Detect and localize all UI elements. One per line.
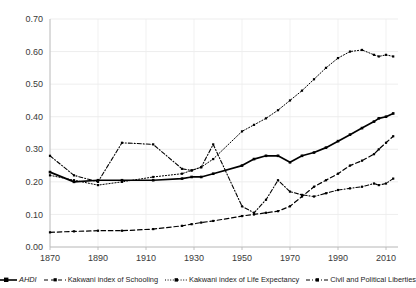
series-marker-2: [49, 174, 51, 176]
series-marker-2: [121, 181, 123, 183]
y-axis-tick-label: 0.30: [25, 144, 43, 154]
series-marker-2: [212, 158, 214, 160]
series-marker-2: [73, 179, 75, 181]
series-marker-3: [97, 181, 99, 183]
series-marker-2: [253, 124, 255, 126]
x-axis-tick-label: 1910: [136, 253, 156, 263]
series-marker-0: [212, 172, 215, 175]
series-marker-1: [277, 210, 279, 212]
series-marker-2: [337, 57, 339, 59]
series-marker-0: [378, 117, 381, 120]
x-axis-tick-label: 1870: [40, 253, 60, 263]
series-marker-1: [191, 223, 193, 225]
series-marker-2: [152, 176, 154, 178]
series-marker-1: [152, 228, 154, 230]
series-marker-2: [265, 117, 267, 119]
series-marker-2: [361, 49, 363, 51]
series-marker-3: [73, 174, 75, 176]
legend-item: Kakwani index of Schooling: [44, 276, 158, 284]
x-axis-tick-label: 1890: [88, 253, 108, 263]
series-marker-2: [349, 50, 351, 52]
series-marker-3: [212, 143, 214, 145]
legend-marker-schooling: [44, 276, 66, 284]
series-marker-3: [289, 191, 291, 193]
series-marker-1: [265, 212, 267, 214]
series-marker-3: [277, 179, 279, 181]
series-marker-0: [181, 177, 184, 180]
series-marker-1: [200, 221, 202, 223]
series-marker-0: [241, 164, 244, 167]
series-marker-3: [181, 168, 183, 170]
legend-item: AHDI: [0, 276, 37, 284]
series-marker-0: [392, 112, 395, 115]
legend-marker-ahdi: [0, 276, 17, 284]
chart-legend: AHDI Kakwani index of Schooling Kakwani …: [0, 276, 411, 284]
series-marker-1: [373, 153, 375, 155]
series-marker-1: [289, 205, 291, 207]
x-axis-tick-label: 2010: [376, 253, 396, 263]
series-marker-0: [325, 146, 328, 149]
series-marker-1: [181, 225, 183, 227]
series-marker-1: [241, 215, 243, 217]
series-marker-2: [373, 54, 375, 56]
series-marker-1: [349, 164, 351, 166]
series-marker-1: [73, 230, 75, 232]
x-axis-tick-label: 1930: [184, 253, 204, 263]
series-line-0: [50, 113, 393, 181]
series-marker-2: [385, 54, 387, 56]
series-marker-1: [378, 148, 380, 150]
series-marker-1: [392, 135, 394, 137]
series-marker-3: [349, 187, 351, 189]
series-line-3: [50, 143, 393, 213]
series-marker-1: [121, 230, 123, 232]
legend-label-schooling: Kakwani index of Schooling: [68, 276, 158, 283]
series-marker-2: [392, 55, 394, 57]
series-marker-3: [253, 212, 255, 214]
series-marker-3: [373, 182, 375, 184]
series-marker-0: [277, 155, 280, 158]
series-marker-0: [337, 140, 340, 143]
series-marker-2: [378, 55, 380, 57]
series-marker-3: [191, 169, 193, 171]
series-marker-1: [385, 142, 387, 144]
series-marker-3: [241, 205, 243, 207]
series-marker-0: [373, 120, 376, 123]
series-marker-2: [277, 109, 279, 111]
series-marker-0: [385, 115, 388, 118]
x-axis-tick-label: 1950: [232, 253, 252, 263]
series-marker-3: [325, 192, 327, 194]
series-marker-0: [313, 151, 316, 154]
y-axis-tick-label: 0.50: [25, 79, 43, 89]
x-axis-tick-label: 1990: [328, 253, 348, 263]
legend-label-civil-liberties: Civil and Political Liberties: [330, 276, 416, 283]
series-marker-0: [49, 171, 52, 174]
series-line-2: [50, 50, 393, 185]
series-marker-0: [200, 176, 203, 179]
legend-label-life-expectancy: Kakwani index of Life Expectancy: [189, 276, 299, 283]
y-axis-tick-label: 0.00: [25, 242, 43, 252]
series-marker-3: [301, 194, 303, 196]
legend-marker-life-expectancy: [165, 276, 187, 284]
legend-item: Kakwani index of Life Expectancy: [165, 276, 299, 284]
series-marker-0: [253, 158, 256, 161]
series-marker-3: [200, 166, 202, 168]
y-axis-tick-label: 0.60: [25, 47, 43, 57]
series-marker-2: [325, 67, 327, 69]
series-marker-3: [265, 199, 267, 201]
legend-marker-civil-liberties: [306, 276, 328, 284]
series-marker-1: [337, 173, 339, 175]
series-marker-3: [313, 195, 315, 197]
y-axis-tick-label: 0.10: [25, 210, 43, 220]
y-axis-tick-label: 0.70: [25, 14, 43, 24]
series-marker-0: [361, 127, 364, 130]
series-marker-3: [49, 155, 51, 157]
series-marker-3: [152, 143, 154, 145]
series-marker-1: [97, 230, 99, 232]
series-marker-2: [313, 78, 315, 80]
series-marker-2: [241, 130, 243, 132]
series-marker-0: [301, 155, 304, 158]
x-axis-tick-label: 1970: [280, 253, 300, 263]
series-marker-3: [337, 189, 339, 191]
series-marker-2: [181, 173, 183, 175]
